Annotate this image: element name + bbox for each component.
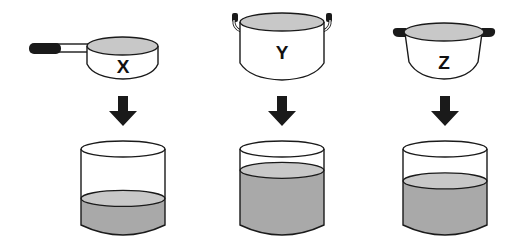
liquid-surface [403,173,487,189]
pot-rim [240,13,324,31]
vessel-z: Z [393,23,495,79]
vessel-label-x: X [117,56,130,77]
beaker-x [81,141,165,235]
vessel-y: Y [232,13,332,80]
beaker-rim [240,141,324,157]
vessel-label-y: Y [276,42,289,63]
liquid-surface [81,190,165,206]
liquid-surface [240,162,324,178]
beaker-z [403,141,487,235]
beaker-y [240,141,324,235]
beaker-rim [403,141,487,157]
pan-rim [87,37,158,55]
diagram: X Y Z [0,0,526,248]
liquid-body [240,170,324,235]
down-arrow-icon [431,96,459,126]
vessel-x: X [29,37,158,79]
down-arrow-icon [109,96,137,126]
pot-rim [404,23,484,41]
beaker-rim [81,141,165,157]
vessel-label-z: Z [438,52,450,73]
down-arrow-icon [268,96,296,126]
